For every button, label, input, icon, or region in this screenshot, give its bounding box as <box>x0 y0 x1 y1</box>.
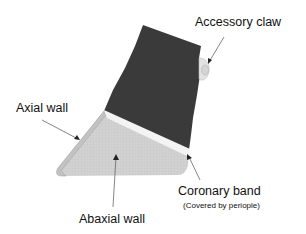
arrowhead-icon <box>187 154 192 160</box>
coronary-band-arrow <box>189 157 200 180</box>
axial-wall-arrow <box>42 120 78 139</box>
axial-wall-label: Axial wall <box>16 102 68 115</box>
abaxial-wall-label: Abaxial wall <box>79 213 145 226</box>
coronary-band-note: (Covered by periople) <box>183 202 260 210</box>
accessory-claw-shape <box>199 58 209 80</box>
coronary-band-label: Coronary band <box>178 185 261 198</box>
arrowhead-icon <box>208 58 212 64</box>
accessory-claw-label: Accessory claw <box>195 16 281 29</box>
claw-diagram <box>0 0 306 234</box>
accessory-claw-arrow <box>209 37 224 62</box>
